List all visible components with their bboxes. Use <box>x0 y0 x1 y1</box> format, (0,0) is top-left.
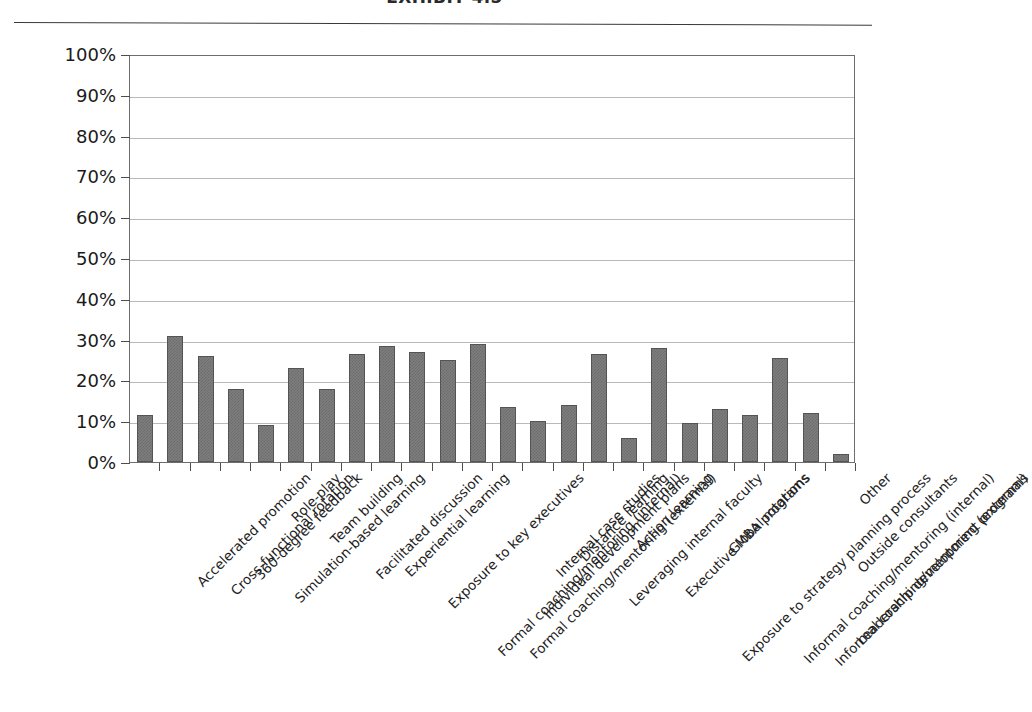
x-axis-tick-mark <box>583 463 584 471</box>
x-axis-tick-mark <box>674 463 675 471</box>
bar <box>833 454 849 462</box>
y-axis-tick-label: 100% <box>46 46 116 64</box>
bar <box>258 425 274 462</box>
bar <box>440 360 456 462</box>
bar <box>379 346 395 462</box>
bar <box>137 415 153 462</box>
x-axis-tick-mark <box>522 463 523 471</box>
bar <box>167 336 183 462</box>
bar <box>409 352 425 462</box>
gridline <box>130 342 854 343</box>
x-axis-tick-mark <box>280 463 281 471</box>
y-axis-tick-label: 60% <box>46 209 116 227</box>
y-axis-tick-label: 30% <box>46 332 116 350</box>
y-axis-tick-label: 70% <box>46 168 116 186</box>
y-axis-labels: 100%90%80%70%60%50%40%30%20%10%0% <box>46 55 116 463</box>
x-axis-tick-mark <box>462 463 463 471</box>
bar <box>591 354 607 462</box>
y-axis-tick-label: 0% <box>46 454 116 472</box>
bar <box>198 356 214 462</box>
bar <box>682 423 698 462</box>
bar <box>319 389 335 462</box>
x-axis-tick-mark <box>855 463 856 471</box>
bar <box>712 409 728 462</box>
x-axis-tick-mark <box>371 463 372 471</box>
y-axis-tick-label: 20% <box>46 372 116 390</box>
x-axis-tick-mark <box>613 463 614 471</box>
bar <box>803 413 819 462</box>
bar <box>530 421 546 462</box>
gridline <box>130 260 854 261</box>
y-axis-tick-mark <box>121 55 130 56</box>
x-axis-tick-mark <box>220 463 221 471</box>
y-axis-tick-label: 10% <box>46 413 116 431</box>
bar <box>772 358 788 462</box>
y-axis-tick-mark <box>121 341 130 342</box>
bar <box>288 368 304 462</box>
x-axis-tick-mark <box>643 463 644 471</box>
y-axis-tick-mark <box>121 137 130 138</box>
x-axis-tick-mark <box>734 463 735 471</box>
x-axis-tick-mark <box>825 463 826 471</box>
x-axis-tick-mark <box>401 463 402 471</box>
x-axis-tick-mark <box>704 463 705 471</box>
x-axis-tick-mark <box>795 463 796 471</box>
y-axis-tick-mark <box>121 259 130 260</box>
x-axis-tick-mark <box>432 463 433 471</box>
gridline <box>130 97 854 98</box>
bar <box>470 344 486 462</box>
x-axis-tick-mark <box>341 463 342 471</box>
x-axis-tick-mark <box>159 463 160 471</box>
gridline <box>130 138 854 139</box>
bar <box>561 405 577 462</box>
x-axis-tick-mark <box>311 463 312 471</box>
x-axis-tick-mark <box>190 463 191 471</box>
gridline <box>130 382 854 383</box>
gridline <box>130 178 854 179</box>
x-axis-tick-mark <box>492 463 493 471</box>
gridline <box>130 219 854 220</box>
y-axis-tick-mark <box>121 381 130 382</box>
bar <box>500 407 516 462</box>
y-axis-tick-mark <box>121 218 130 219</box>
y-axis-tick-mark <box>121 463 130 464</box>
x-axis-labels: Accelerated promotionCross-functional ro… <box>0 471 889 701</box>
bar <box>742 415 758 462</box>
bar <box>228 389 244 462</box>
y-axis-tick-mark <box>121 300 130 301</box>
bar <box>651 348 667 462</box>
bar <box>621 438 637 462</box>
plot-area <box>129 55 855 463</box>
y-axis-tick-label: 90% <box>46 87 116 105</box>
y-axis-tick-label: 40% <box>46 291 116 309</box>
y-axis-tick-mark <box>121 177 130 178</box>
y-axis-tick-mark <box>121 422 130 423</box>
bar <box>349 354 365 462</box>
x-axis-tick-mark <box>553 463 554 471</box>
y-axis-tick-label: 50% <box>46 250 116 268</box>
gridline <box>130 301 854 302</box>
x-axis-tick-mark <box>764 463 765 471</box>
y-axis-tick-mark <box>121 96 130 97</box>
y-axis-tick-label: 80% <box>46 128 116 146</box>
x-axis-tick-mark <box>250 463 251 471</box>
